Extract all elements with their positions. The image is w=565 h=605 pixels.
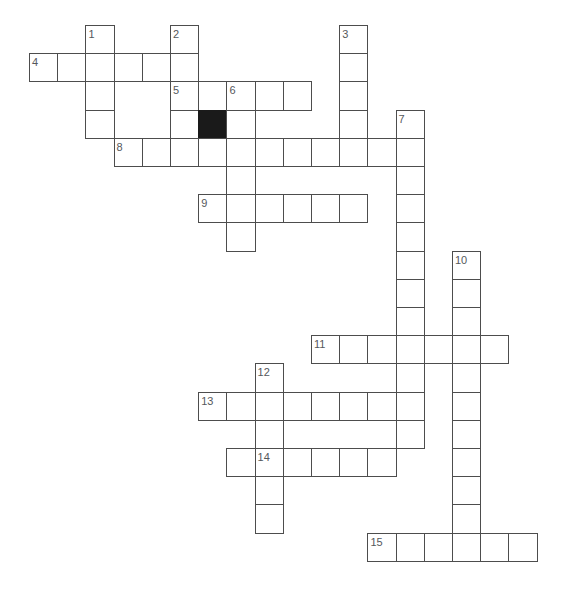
grid-cell[interactable]	[452, 448, 481, 477]
grid-cell[interactable]	[29, 53, 58, 82]
grid-cell[interactable]	[452, 533, 481, 562]
grid-cell[interactable]	[170, 25, 199, 54]
grid-cell[interactable]	[255, 504, 284, 533]
grid-cell[interactable]	[170, 138, 199, 167]
grid-cell[interactable]	[396, 251, 425, 280]
grid-cell[interactable]	[480, 335, 509, 364]
grid-cell[interactable]	[367, 138, 396, 167]
grid-cell[interactable]	[508, 533, 537, 562]
grid-cell[interactable]	[339, 25, 368, 54]
grid-cell[interactable]	[283, 138, 312, 167]
grid-cell[interactable]	[311, 335, 340, 364]
grid-cell[interactable]	[226, 110, 255, 139]
grid-cell[interactable]	[170, 81, 199, 110]
grid-cell[interactable]	[452, 279, 481, 308]
grid-cell[interactable]	[367, 448, 396, 477]
grid-cell[interactable]	[85, 53, 114, 82]
grid-cell[interactable]	[367, 335, 396, 364]
grid-cell[interactable]	[226, 166, 255, 195]
grid-cell[interactable]	[396, 279, 425, 308]
grid-cell[interactable]	[311, 448, 340, 477]
grid-cell[interactable]	[396, 194, 425, 223]
grid-cell[interactable]	[396, 335, 425, 364]
grid-cell[interactable]	[226, 138, 255, 167]
grid-cell[interactable]	[142, 53, 171, 82]
grid-cell[interactable]	[396, 166, 425, 195]
grid-cell[interactable]	[255, 448, 284, 477]
grid-cell[interactable]	[283, 448, 312, 477]
grid-cell[interactable]	[255, 476, 284, 505]
grid-cell[interactable]	[114, 138, 143, 167]
grid-cell[interactable]	[339, 448, 368, 477]
grid-cell[interactable]	[367, 533, 396, 562]
grid-cell[interactable]	[339, 81, 368, 110]
grid-cell[interactable]	[170, 110, 199, 139]
grid-cell[interactable]	[452, 335, 481, 364]
grid-cell[interactable]	[452, 504, 481, 533]
grid-cell[interactable]	[226, 222, 255, 251]
grid-cell[interactable]	[198, 138, 227, 167]
grid-cell[interactable]	[226, 392, 255, 421]
grid-cell[interactable]	[339, 335, 368, 364]
grid-cell[interactable]	[85, 81, 114, 110]
grid-cell[interactable]	[311, 194, 340, 223]
grid-cell[interactable]	[85, 25, 114, 54]
grid-cell[interactable]	[339, 392, 368, 421]
grid-cell[interactable]	[226, 448, 255, 477]
grid-cell[interactable]	[255, 392, 284, 421]
grid-cell[interactable]	[226, 194, 255, 223]
grid-cell[interactable]	[396, 110, 425, 139]
grid-cell[interactable]	[85, 110, 114, 139]
grid-cell[interactable]	[255, 363, 284, 392]
grid-cell[interactable]	[170, 53, 199, 82]
grid-cell[interactable]	[283, 81, 312, 110]
grid-cell[interactable]	[339, 138, 368, 167]
grid-cell[interactable]	[339, 110, 368, 139]
grid-cell[interactable]	[452, 420, 481, 449]
grid-cell[interactable]	[396, 363, 425, 392]
grid-cell[interactable]	[452, 251, 481, 280]
grid-cell[interactable]	[396, 533, 425, 562]
grid-cell[interactable]	[255, 138, 284, 167]
grid-cell[interactable]	[396, 420, 425, 449]
grid-cell[interactable]	[396, 138, 425, 167]
grid-cell[interactable]	[396, 392, 425, 421]
grid-cell[interactable]	[255, 194, 284, 223]
grid-cell[interactable]	[480, 533, 509, 562]
grid-cell[interactable]	[311, 392, 340, 421]
grid-cell[interactable]	[226, 81, 255, 110]
grid-cell[interactable]	[198, 194, 227, 223]
crossword-grid: 123456789101112131415	[0, 0, 565, 605]
grid-cell[interactable]	[367, 392, 396, 421]
grid-cell[interactable]	[57, 53, 86, 82]
grid-cell[interactable]	[339, 53, 368, 82]
grid-cell[interactable]	[198, 392, 227, 421]
grid-cell[interactable]	[311, 138, 340, 167]
grid-cell[interactable]	[339, 194, 368, 223]
grid-cell[interactable]	[255, 81, 284, 110]
grid-cell[interactable]	[198, 81, 227, 110]
grid-cell[interactable]	[283, 194, 312, 223]
grid-cell[interactable]	[452, 363, 481, 392]
grid-cell[interactable]	[452, 307, 481, 336]
grid-cell[interactable]	[396, 307, 425, 336]
grid-cell[interactable]	[424, 533, 453, 562]
grid-cell[interactable]	[255, 420, 284, 449]
grid-cell[interactable]	[142, 138, 171, 167]
grid-cell[interactable]	[424, 335, 453, 364]
grid-cell[interactable]	[452, 392, 481, 421]
grid-cell[interactable]	[283, 392, 312, 421]
block-cell	[198, 110, 227, 139]
grid-cell[interactable]	[396, 222, 425, 251]
grid-cell[interactable]	[114, 53, 143, 82]
grid-cell[interactable]	[452, 476, 481, 505]
